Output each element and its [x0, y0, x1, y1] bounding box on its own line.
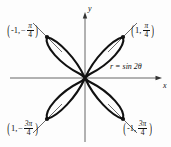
theta-fraction: π4 — [27, 22, 34, 38]
paren-close: ) — [149, 122, 152, 135]
point-r-value: -1 — [11, 26, 18, 35]
petal-upper-left — [47, 37, 85, 78]
paren-close: ) — [35, 122, 38, 135]
fraction-numerator: 3π — [138, 120, 148, 128]
fraction-numerator: π — [144, 22, 150, 30]
paren-close: ) — [151, 24, 154, 37]
theta-fraction: π4 — [143, 22, 150, 38]
point-dot-top-left — [45, 35, 49, 39]
theta-fraction: 3π4 — [138, 120, 148, 136]
paren-close: ) — [35, 24, 38, 37]
paren-open: ( — [7, 122, 10, 135]
y-axis-label: y — [88, 5, 92, 13]
x-axis-arrow — [156, 76, 163, 80]
point-label-top-left: (-1,−π4) — [6, 22, 39, 38]
point-label-bottom-left: (1,−3π4) — [6, 120, 39, 136]
y-axis-arrow — [83, 12, 87, 19]
petal-lower-left — [47, 78, 85, 119]
petal-lower-right — [85, 78, 123, 119]
fraction-numerator: π — [27, 22, 33, 30]
fraction-denominator: 4 — [144, 31, 150, 39]
petal-upper-right — [85, 37, 123, 78]
paren-open: ( — [131, 24, 134, 37]
fraction-denominator: 4 — [27, 31, 33, 39]
theta-fraction: 3π4 — [24, 120, 34, 136]
point-r-value: -1 — [127, 124, 134, 133]
fraction-denominator: 4 — [26, 129, 32, 137]
point-dot-bottom-left — [45, 117, 49, 121]
theta-sign: − — [21, 26, 26, 35]
point-dot-top-right — [121, 35, 125, 39]
polar-rose-figure: x y r = sin 2θ (-1,−π4) (1,π4) (1,−3π4) … — [0, 0, 171, 147]
point-label-top-right: (1,π4) — [130, 22, 155, 38]
point-label-bottom-right: (-1,3π4) — [122, 120, 153, 136]
equation-label: r = sin 2θ — [110, 63, 142, 71]
x-axis-label: x — [163, 82, 167, 90]
fraction-numerator: 3π — [24, 120, 34, 128]
fraction-denominator: 4 — [140, 129, 146, 137]
paren-open: ( — [7, 24, 10, 37]
theta-sign: − — [18, 124, 23, 133]
paren-open: ( — [123, 122, 126, 135]
